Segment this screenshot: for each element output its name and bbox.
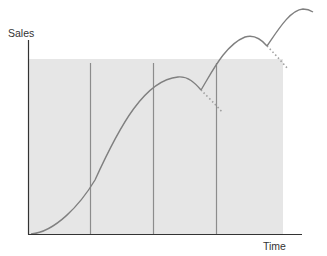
x-axis-label: Time <box>263 240 286 252</box>
y-axis-label: Sales <box>8 27 34 39</box>
diagram-canvas <box>0 0 327 256</box>
lifecycle-curve-3 <box>267 9 313 46</box>
